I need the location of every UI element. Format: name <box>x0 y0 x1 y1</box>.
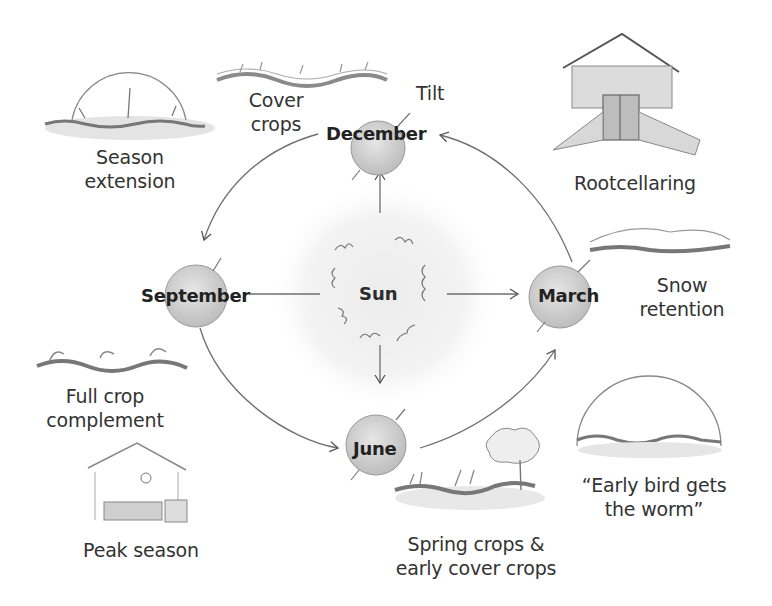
activity-line: Season <box>70 145 190 169</box>
sun-label: Sun <box>359 283 398 304</box>
market-stall-illustration <box>88 443 187 522</box>
activity-snow-retention: Snow retention <box>632 273 732 321</box>
tilt-annotation: Tilt <box>416 81 444 105</box>
activity-cover-crops: Cover crops <box>226 88 326 136</box>
activity-line: retention <box>632 297 732 321</box>
activity-line: Snow <box>632 273 732 297</box>
activity-line: complement <box>30 408 180 432</box>
activity-peak-season: Peak season <box>66 538 216 562</box>
activity-season-extension: Season extension <box>70 145 190 193</box>
activity-line: Spring crops & <box>386 532 566 556</box>
early-bird-hoop-illustration <box>577 376 722 458</box>
rootcellar-illustration <box>553 34 700 155</box>
activity-line: Peak season <box>66 538 216 562</box>
activity-rootcellaring: Rootcellaring <box>560 171 710 195</box>
snow-retention-illustration <box>590 229 730 252</box>
spring-crops-illustration <box>395 428 545 510</box>
activity-line: Full crop <box>30 384 180 408</box>
season-label-march: March <box>538 285 599 306</box>
season-label-september: September <box>141 285 250 306</box>
activity-line: Rootcellaring <box>560 171 710 195</box>
activity-line: the worm” <box>574 497 734 521</box>
activity-spring-crops: Spring crops & early cover crops <box>386 532 566 580</box>
activity-line: crops <box>226 112 326 136</box>
cover-crops-illustration <box>217 62 387 86</box>
activity-line: extension <box>70 169 190 193</box>
season-label-june: June <box>353 438 396 459</box>
full-crop-illustration <box>37 349 187 371</box>
activity-line: early cover crops <box>386 556 566 580</box>
season-label-december: December <box>326 123 426 144</box>
activity-full-crop: Full crop complement <box>30 384 180 432</box>
activity-line: Cover <box>226 88 326 112</box>
season-extension-illustration <box>45 73 215 140</box>
activity-line: “Early bird gets <box>574 473 734 497</box>
activity-early-bird: “Early bird gets the worm” <box>574 473 734 521</box>
